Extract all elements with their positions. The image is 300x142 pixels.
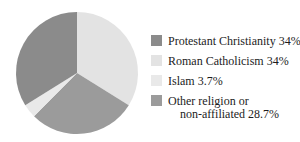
pie-chart [0, 0, 150, 142]
legend-label-other-line1: Other religion or [168, 94, 249, 108]
pie-chart-area [0, 0, 150, 142]
legend-swatch-islam [151, 75, 162, 86]
pie-chart-figure: Protestant Christianity 34% Roman Cathol… [0, 0, 300, 142]
legend-label-roman-catholicism: Roman Catholicism 34% [168, 55, 289, 68]
legend-label-other: Other religion or non-affiliated 28.7% [168, 95, 279, 121]
legend-item-roman-catholicism: Roman Catholicism 34% [151, 55, 300, 68]
legend-swatch-protestant [151, 35, 162, 46]
legend-item-protestant: Protestant Christianity 34% [151, 35, 300, 48]
legend-swatch-other [151, 95, 162, 106]
legend-label-other-line2: non-affiliated 28.7% [180, 108, 279, 121]
legend-item-other: Other religion or non-affiliated 28.7% [151, 95, 300, 121]
legend-swatch-roman-catholicism [151, 55, 162, 66]
legend-label-islam: Islam 3.7% [168, 75, 223, 88]
legend-item-islam: Islam 3.7% [151, 75, 300, 88]
legend-label-protestant: Protestant Christianity 34% [168, 35, 300, 48]
legend: Protestant Christianity 34% Roman Cathol… [151, 35, 300, 128]
